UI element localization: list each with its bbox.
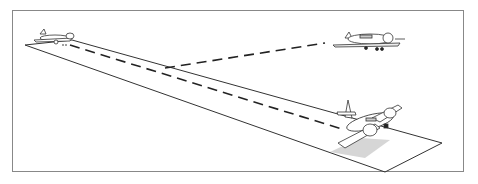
airplane-right [333,32,405,51]
dashed-line-left-to-front [70,45,345,130]
airplane-far-left [34,29,74,45]
runway-illustration [0,0,478,184]
dashed-line-junction-to-right [165,43,325,68]
airplane-front-shadow [330,138,390,158]
runway [25,40,442,172]
